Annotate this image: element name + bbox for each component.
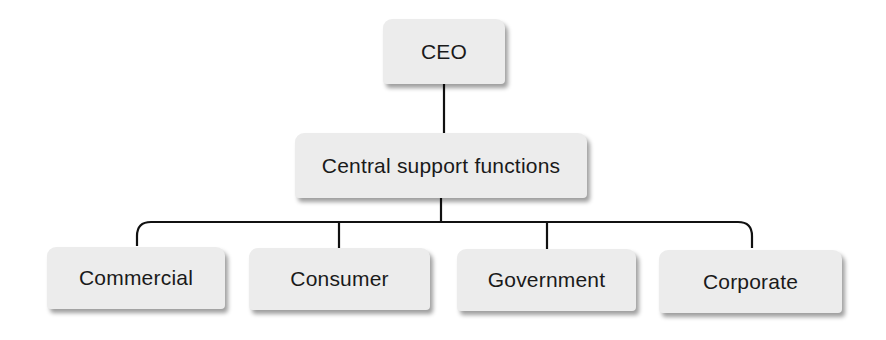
node-central-label: Central support functions bbox=[322, 154, 560, 178]
node-government: Government bbox=[457, 249, 636, 311]
node-ceo-label: CEO bbox=[421, 40, 467, 64]
node-government-label: Government bbox=[488, 268, 606, 292]
node-ceo: CEO bbox=[383, 19, 505, 84]
node-commercial-label: Commercial bbox=[79, 266, 193, 290]
node-corporate-label: Corporate bbox=[703, 270, 798, 294]
node-consumer: Consumer bbox=[249, 248, 430, 310]
node-central-support-functions: Central support functions bbox=[295, 133, 587, 198]
node-commercial: Commercial bbox=[47, 247, 225, 309]
node-corporate: Corporate bbox=[659, 250, 842, 313]
node-consumer-label: Consumer bbox=[290, 267, 388, 291]
connector-bar bbox=[137, 222, 752, 248]
